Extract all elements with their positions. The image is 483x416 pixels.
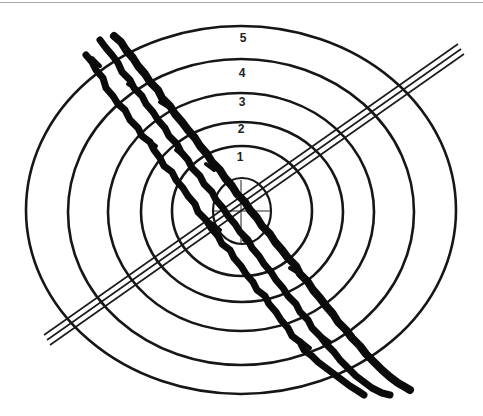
target-diagram: 5 4 3 2 1 xyxy=(0,0,483,416)
scribble-stroke-3 xyxy=(114,36,410,390)
scribble-strokes xyxy=(86,36,410,395)
ring-label-1: 1 xyxy=(237,150,244,164)
ring-labels: 5 4 3 2 1 xyxy=(237,31,247,164)
ring-label-2: 2 xyxy=(238,122,245,136)
ring-label-5: 5 xyxy=(240,31,247,45)
ring-label-3: 3 xyxy=(239,95,246,109)
ring-label-4: 4 xyxy=(239,66,246,80)
